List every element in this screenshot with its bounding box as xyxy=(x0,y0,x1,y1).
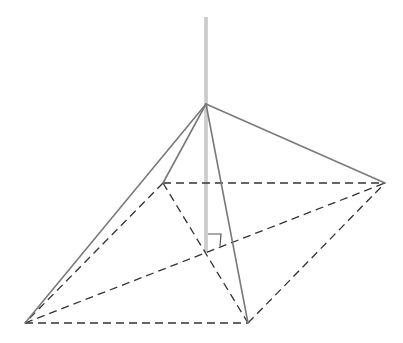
solid-edge-apex-base_right xyxy=(206,104,385,183)
pyramid-figure xyxy=(0,0,403,343)
dashed-edge-base_front_right-base_right xyxy=(248,183,385,323)
solid-edge-apex-base_front_right xyxy=(206,104,248,323)
right-angle-icon xyxy=(208,234,221,246)
dashed-edge-base_back_left-base_front_left xyxy=(25,183,163,323)
pyramid-diagram xyxy=(0,0,403,343)
solid-edge-apex-base_front_left xyxy=(25,104,206,323)
solid-edge-apex-base_back_left xyxy=(163,104,206,183)
right-angle-mark xyxy=(208,234,221,246)
